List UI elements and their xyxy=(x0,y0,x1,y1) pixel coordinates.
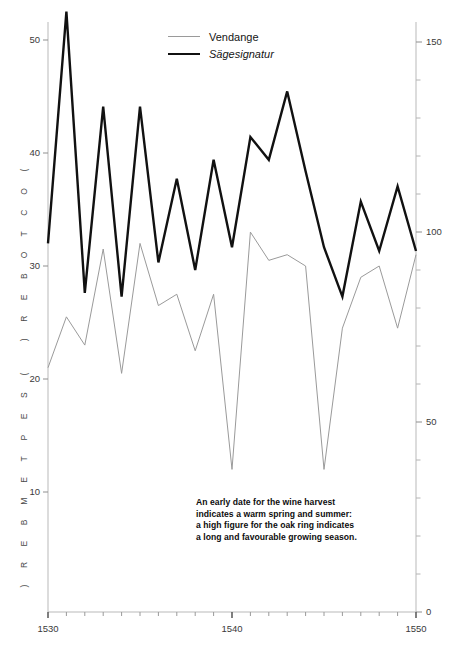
svg-text:T: T xyxy=(19,231,29,236)
svg-text:B: B xyxy=(19,519,29,525)
annotation-line-3: a high figure for the oak ring indicates xyxy=(196,520,406,532)
chart-legend: Vendange Sägesignatur xyxy=(168,28,318,62)
svg-text:E: E xyxy=(19,294,29,300)
chart-figure: 5040302010(OCTOBER)(SEPTEMBER)0501001501… xyxy=(0,0,466,650)
svg-text:O: O xyxy=(19,188,29,195)
legend-item-saegesignatur: Sägesignatur xyxy=(168,45,318,62)
svg-text:M: M xyxy=(19,498,29,505)
left-axis-group-label: (OCTOBER) xyxy=(19,169,29,342)
annotation-line-2: indicates a warm spring and summer: xyxy=(196,509,406,521)
legend-swatch-saegesignatur xyxy=(168,53,200,55)
right-axis-tick-label: 150 xyxy=(426,36,442,47)
left-axis-tick-label: 50 xyxy=(29,34,40,45)
svg-text:O: O xyxy=(19,251,29,258)
svg-text:): ) xyxy=(19,338,29,341)
left-axis-tick-label: 30 xyxy=(29,260,40,271)
left-axis-tick-label: 10 xyxy=(29,486,40,497)
svg-text:R: R xyxy=(19,316,29,322)
legend-label-saegesignatur: Sägesignatur xyxy=(209,48,274,60)
svg-text:C: C xyxy=(19,210,29,216)
svg-text:B: B xyxy=(19,273,29,279)
left-axis-group-label: (SEPTEMBER) xyxy=(19,372,29,587)
svg-text:): ) xyxy=(19,584,29,587)
svg-text:E: E xyxy=(19,413,29,419)
chart-annotation-note: An early date for the wine harvest indic… xyxy=(196,497,406,543)
series-line-vendange xyxy=(48,232,416,469)
annotation-line-1: An early date for the wine harvest xyxy=(196,497,406,509)
legend-item-vendange: Vendange xyxy=(168,28,318,45)
svg-text:S: S xyxy=(19,392,29,398)
svg-text:R: R xyxy=(19,562,29,568)
legend-label-vendange: Vendange xyxy=(209,31,259,43)
right-axis-tick-label: 0 xyxy=(426,606,431,617)
x-axis-tick-label: 1550 xyxy=(405,623,426,634)
chart-canvas: 5040302010(OCTOBER)(SEPTEMBER)0501001501… xyxy=(0,0,466,650)
x-axis-tick-label: 1540 xyxy=(221,623,242,634)
svg-text:T: T xyxy=(19,456,29,461)
right-axis-tick-label: 100 xyxy=(426,226,442,237)
svg-text:(: ( xyxy=(19,169,29,172)
svg-text:E: E xyxy=(19,477,29,483)
svg-text:P: P xyxy=(19,434,29,440)
svg-text:(: ( xyxy=(19,372,29,375)
series-layer xyxy=(48,12,416,470)
right-axis-tick-label: 50 xyxy=(426,416,437,427)
left-axis-tick-label: 20 xyxy=(29,373,40,384)
svg-text:E: E xyxy=(19,540,29,546)
left-axis-tick-label: 40 xyxy=(29,147,40,158)
annotation-line-4: a long and favourable growing season. xyxy=(196,532,406,544)
legend-swatch-vendange xyxy=(168,36,200,37)
x-axis-tick-label: 1530 xyxy=(37,623,58,634)
